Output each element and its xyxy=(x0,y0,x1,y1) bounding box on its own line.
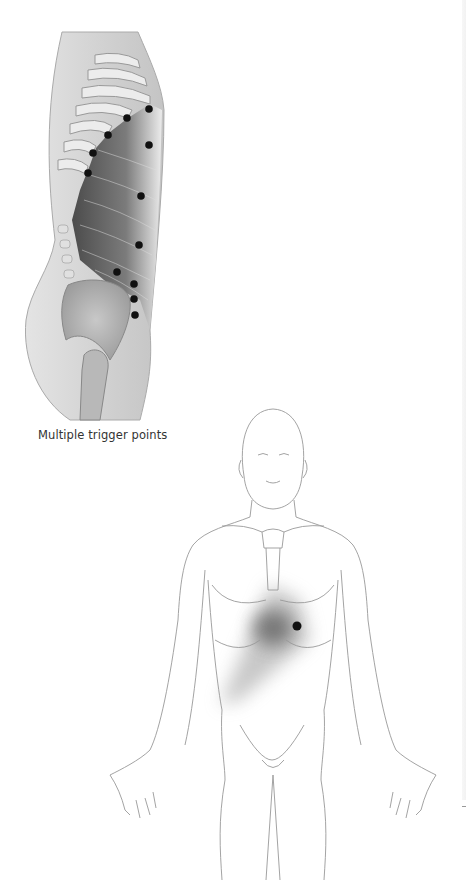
trigger-point xyxy=(89,149,97,157)
trigger-point xyxy=(293,622,302,631)
lateral-torso-drawing xyxy=(0,0,233,460)
side-view-illustration: Multiple trigger points xyxy=(0,0,233,460)
trigger-point xyxy=(130,295,138,303)
trigger-point xyxy=(113,268,121,276)
trigger-point xyxy=(130,280,138,288)
trigger-point xyxy=(135,241,143,249)
trigger-point xyxy=(104,131,112,139)
trigger-point xyxy=(123,114,131,122)
trigger-point xyxy=(84,169,92,177)
page-edge-mark xyxy=(462,806,466,807)
page-edge xyxy=(462,0,466,800)
trigger-point xyxy=(137,192,145,200)
trigger-point xyxy=(145,141,153,149)
front-view-illustration xyxy=(90,395,450,882)
anterior-body-drawing xyxy=(90,395,450,882)
trigger-point xyxy=(145,105,153,113)
trigger-point xyxy=(131,311,139,319)
